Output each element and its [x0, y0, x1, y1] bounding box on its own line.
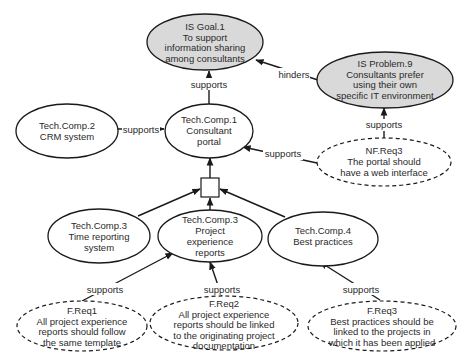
node-label: Project: [195, 225, 225, 236]
node-label: Tech.Comp.3: [182, 214, 238, 225]
node-label: portal: [197, 136, 221, 147]
node-label: have a web interface: [340, 167, 428, 178]
node-label: Consultants prefer: [346, 69, 424, 80]
node-label: The portal should: [347, 156, 420, 167]
edge-label-problem9-goal1: hinders: [278, 69, 309, 80]
node-label: reports: [195, 247, 225, 258]
node-label: All project experience: [179, 309, 270, 320]
goal-model-diagram: IS Goal.1 To support information sharing…: [0, 0, 470, 364]
node-f-req-1[interactable]: F.Req1 All project experience reports sh…: [17, 301, 147, 351]
node-is-goal-1[interactable]: IS Goal.1 To support information sharing…: [147, 14, 263, 70]
node-label: Best practices should be: [330, 316, 434, 327]
and-junction-box[interactable]: [201, 178, 219, 197]
node-label: specific IT environment: [336, 90, 434, 101]
node-label: documentation: [193, 340, 255, 351]
edge-label-nfreq3-problem9: supports: [366, 119, 403, 130]
node-label: Best practices: [293, 236, 353, 247]
node-label: F.Req1: [67, 305, 97, 316]
node-nf-req-3[interactable]: NF.Req3 The portal should have a web int…: [317, 138, 451, 186]
node-label: Tech.Comp.1: [181, 114, 237, 125]
node-label: information sharing: [165, 42, 246, 53]
edge-label-comp1-goal1: supports: [191, 79, 228, 90]
node-label: To support: [183, 32, 228, 43]
edge-label-freq2-comp3proj: supports: [204, 284, 241, 295]
node-label: among consultants: [165, 53, 245, 64]
node-label: which it has been applied: [328, 337, 436, 348]
node-label: reports should be linked: [174, 319, 275, 330]
node-label: Consultant: [186, 125, 232, 136]
node-label: IS Goal.1: [185, 21, 225, 32]
node-tech-comp-1[interactable]: Tech.Comp.1 Consultant portal: [165, 104, 253, 158]
node-label: Tech.Comp.2: [39, 120, 95, 131]
node-label: Tech.Comp.4: [295, 225, 351, 236]
edge-label-comp2-comp1: supports: [123, 124, 160, 135]
node-label: system: [84, 242, 114, 253]
node-label: IS Problem.9: [358, 58, 413, 69]
node-tech-comp-4[interactable]: Tech.Comp.4 Best practices: [268, 212, 378, 266]
node-label: the same template: [43, 337, 121, 348]
node-label: linked to the projects in: [333, 326, 430, 337]
node-label: reports should follow: [38, 326, 125, 337]
node-label: to the originating project: [173, 330, 275, 341]
node-label: Tech.Comp.3: [71, 220, 127, 231]
node-label: NF.Req3: [366, 145, 403, 156]
node-f-req-3[interactable]: F.Req3 Best practices should be linked t…: [308, 301, 456, 351]
node-label: All project experience: [37, 316, 128, 327]
node-tech-comp-2[interactable]: Tech.Comp.2 CRM system: [16, 104, 118, 158]
edge-label-freq3-comp4: supports: [343, 284, 380, 295]
node-f-req-2[interactable]: F.Req2 All project experience reports sh…: [150, 296, 298, 351]
edge-label-nfreq3-comp1: supports: [265, 148, 302, 159]
node-label: using their own: [353, 79, 417, 90]
node-tech-comp-3-project-experience[interactable]: Tech.Comp.3 Project experience reports: [158, 210, 262, 262]
edge-label-freq1-comp3proj: supports: [87, 284, 124, 295]
node-label: F.Req3: [367, 305, 397, 316]
node-label: Time reporting: [69, 231, 130, 242]
node-tech-comp-3-time-reporting[interactable]: Tech.Comp.3 Time reporting system: [48, 209, 150, 263]
node-label: F.Req2: [209, 298, 239, 309]
node-is-problem-9[interactable]: IS Problem.9 Consultants prefer using th…: [317, 52, 453, 108]
node-label: experience: [187, 236, 233, 247]
node-label: CRM system: [40, 131, 94, 142]
